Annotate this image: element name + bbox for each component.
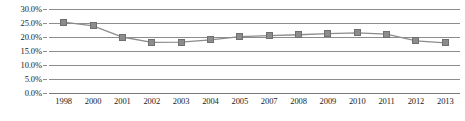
y-axis-label: 30.0%: [21, 5, 42, 14]
x-axis-label: 2010: [349, 96, 366, 107]
x-axis-label: 2007: [261, 96, 278, 107]
x-axis-label: 2000: [85, 96, 102, 107]
x-axis-label: 2003: [173, 96, 190, 107]
data-point-marker: [60, 19, 67, 26]
x-axis-label: 2013: [437, 96, 454, 107]
x-axis-label: 2009: [320, 96, 337, 107]
x-axis-label: 2008: [290, 96, 307, 107]
y-axis-tick: [43, 51, 47, 52]
x-axis-label: 1998: [55, 96, 72, 107]
data-point-marker: [383, 31, 390, 38]
series-line: [49, 9, 460, 93]
data-point-marker: [236, 33, 243, 40]
data-point-marker: [324, 30, 331, 37]
y-axis-label: 10.0%: [21, 61, 42, 70]
data-point-marker: [266, 32, 273, 39]
y-axis-label: 0.0%: [25, 89, 42, 98]
x-axis-label: 2011: [378, 96, 394, 107]
data-point-marker: [207, 36, 214, 43]
x-axis-label: 2002: [143, 96, 160, 107]
line-chart: 30.0%25.0%20.0%15.0%10.0%5.0%0.0% 199820…: [0, 0, 465, 121]
data-point-marker: [90, 22, 97, 29]
gridline-00: [49, 93, 460, 94]
data-point-marker: [148, 39, 155, 46]
data-point-marker: [119, 34, 126, 41]
data-point-marker: [412, 37, 419, 44]
x-axis-label: 2012: [408, 96, 425, 107]
y-axis-tick: [43, 65, 47, 66]
data-series: [49, 9, 460, 93]
y-axis-label: 15.0%: [21, 47, 42, 56]
data-point-marker: [442, 39, 449, 46]
y-axis-tick: [43, 37, 47, 38]
y-axis-tick: [43, 79, 47, 80]
y-axis-tick: [43, 9, 47, 10]
data-point-marker: [295, 31, 302, 38]
x-axis-label: 2004: [202, 96, 219, 107]
y-axis-tick: [43, 93, 47, 94]
x-axis-label: 2005: [232, 96, 249, 107]
y-axis-label: 5.0%: [25, 75, 42, 84]
x-axis: 1998200020012002200320042005200720082009…: [49, 96, 460, 116]
data-point-marker: [178, 39, 185, 46]
plot-area: [49, 9, 460, 93]
y-axis-label: 25.0%: [21, 19, 42, 28]
y-axis-label: 20.0%: [21, 33, 42, 42]
x-axis-label: 2001: [114, 96, 131, 107]
y-axis: 30.0%25.0%20.0%15.0%10.0%5.0%0.0%: [0, 0, 47, 102]
data-point-marker: [354, 29, 361, 36]
y-axis-tick: [43, 23, 47, 24]
